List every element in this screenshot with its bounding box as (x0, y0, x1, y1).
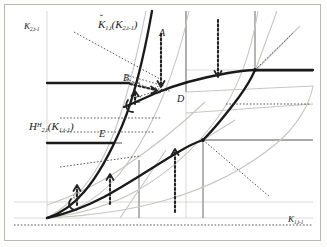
y-axis-label: K2,t-1 (24, 22, 39, 31)
node-dots (201, 68, 257, 142)
aux-line-right-2 (186, 104, 313, 113)
node-dot-right-upper (253, 68, 257, 72)
hat-accent: ˇ (100, 15, 103, 24)
node-dot-right-lower (201, 138, 205, 142)
point-label-C: C (134, 95, 141, 105)
thick-connector-right (203, 70, 255, 140)
dotted-diagonal-bottom-left (60, 156, 140, 167)
aux-curve-2 (47, 11, 189, 218)
aux-curve-1 (47, 11, 146, 218)
point-label-D: D (177, 94, 184, 104)
x-axis-label: K1,t-1 (288, 215, 303, 224)
aux-line-right-up-2 (255, 11, 277, 71)
grid-lines (14, 11, 313, 218)
point-label-A: A (159, 28, 165, 38)
point-label-E: E (99, 129, 105, 139)
dotted-right-down (203, 140, 270, 197)
aux-line-right-1 (186, 86, 313, 92)
curve-k1hat (47, 11, 152, 218)
curve-label-h2H: HH2,t(K1,t-1) (29, 121, 74, 132)
main-curves (47, 11, 313, 218)
point-label-B: B (123, 73, 129, 83)
figure-container: K2,t-1 K1,t-1 Kˇ1,t(K2,t-1) HH2,t(K1,t-1… (0, 0, 327, 247)
curve-label-k1hat: Kˇ1,t(K2,t-1) (98, 19, 137, 30)
